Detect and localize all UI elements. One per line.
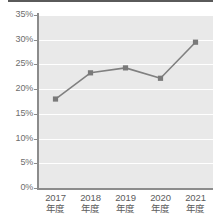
series-line <box>56 42 196 99</box>
x-axis-category-label: 2018年度 <box>71 192 111 214</box>
data-point-marker <box>158 76 163 81</box>
x-axis-year: 2018 <box>71 192 111 203</box>
data-point-marker <box>53 96 58 101</box>
x-axis-year: 2017 <box>36 192 76 203</box>
x-axis-year: 2020 <box>141 192 181 203</box>
x-axis-year: 2021 <box>176 192 216 203</box>
data-point-marker <box>123 65 128 70</box>
x-axis-fiscal-year-suffix: 年度 <box>106 203 146 214</box>
x-axis-fiscal-year-suffix: 年度 <box>36 203 76 214</box>
x-axis-fiscal-year-suffix: 年度 <box>141 203 181 214</box>
data-point-marker <box>88 70 93 75</box>
x-axis-category-label: 2021年度 <box>176 192 216 214</box>
series-marker-group <box>53 40 198 102</box>
line-chart: 0%5%10%15%20%25%30%35% 2017年度2018年度2019年… <box>0 0 219 220</box>
x-axis-year: 2019 <box>106 192 146 203</box>
x-axis-category-label: 2020年度 <box>141 192 181 214</box>
x-axis-fiscal-year-suffix: 年度 <box>71 203 111 214</box>
x-axis-fiscal-year-suffix: 年度 <box>176 203 216 214</box>
x-axis-category-label: 2019年度 <box>106 192 146 214</box>
data-series-layer <box>0 0 219 220</box>
x-axis-category-label: 2017年度 <box>36 192 76 214</box>
data-point-marker <box>193 40 198 45</box>
